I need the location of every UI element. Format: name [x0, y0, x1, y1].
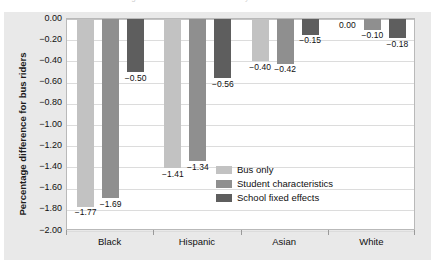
y-axis-tick-label: −1.00 — [22, 120, 62, 129]
y-axis-tick-label: −1.80 — [22, 204, 62, 213]
bar — [127, 19, 144, 72]
x-axis-category-label: Black — [66, 236, 153, 248]
legend-swatch — [216, 180, 232, 188]
legend-label: School fixed effects — [237, 192, 319, 204]
bar — [389, 19, 406, 38]
bar-value-label: −0.15 — [292, 36, 329, 45]
bar — [102, 19, 119, 198]
bar — [364, 19, 381, 30]
y-axis-tick-label: −1.20 — [22, 141, 62, 150]
y-axis-tick-label: −2.00 — [22, 226, 62, 235]
y-axis-tick-labels: 0.00−0.20−0.40−0.60−0.80−1.00−1.20−1.40−… — [22, 18, 62, 230]
chart-figure: Percentage difference for bus riders by … — [0, 0, 435, 263]
bar-value-label: −0.56 — [204, 80, 241, 89]
caption-remnant-text: Percentage difference for bus riders by … — [96, 0, 269, 2]
x-axis-tick-labels: BlackHispanicAsianWhite — [66, 236, 415, 250]
legend-swatch — [216, 166, 232, 174]
bar — [252, 19, 269, 61]
bar-value-label: −0.42 — [267, 65, 304, 74]
x-axis-category-label: Asian — [241, 236, 328, 248]
y-axis-tick-label: −0.40 — [22, 56, 62, 65]
y-axis-tick-label: 0.00 — [22, 14, 62, 23]
bar-value-label: −1.34 — [179, 163, 216, 172]
x-axis-tick-mark — [66, 230, 67, 235]
legend-item: Bus only — [216, 164, 348, 177]
chart-legend: Bus onlyStudent characteristicsSchool fi… — [216, 164, 348, 206]
x-axis-category-label: Hispanic — [153, 236, 240, 248]
bar-value-label: −0.50 — [117, 74, 154, 83]
legend-item: Student characteristics — [216, 178, 348, 191]
bar — [77, 19, 94, 207]
x-axis-tick-mark — [153, 230, 154, 235]
bar — [189, 19, 206, 161]
bar-value-label: −1.69 — [92, 200, 129, 209]
x-axis-tick-mark — [328, 230, 329, 235]
y-axis-tick-label: −0.60 — [22, 77, 62, 86]
bar — [302, 19, 319, 35]
caption-remnant: Percentage difference for bus riders by … — [0, 0, 435, 9]
legend-label: Bus only — [237, 164, 273, 176]
bar-value-label: −0.18 — [379, 40, 416, 49]
y-axis-tick-label: −1.40 — [22, 162, 62, 171]
y-axis-tick-label: −0.80 — [22, 98, 62, 107]
bar-value-label: −1.77 — [67, 208, 104, 217]
bar — [164, 19, 181, 168]
bar — [214, 19, 231, 78]
y-axis-tick-label: −1.60 — [22, 183, 62, 192]
x-axis-tick-mark — [241, 230, 242, 235]
legend-swatch — [216, 194, 232, 202]
bar-value-label: 0.00 — [329, 21, 366, 30]
y-axis-tick-label: −0.20 — [22, 35, 62, 44]
x-axis-tick-mark — [414, 230, 415, 235]
x-axis-category-label: White — [328, 236, 415, 248]
legend-label: Student characteristics — [237, 178, 333, 190]
legend-item: School fixed effects — [216, 192, 348, 205]
